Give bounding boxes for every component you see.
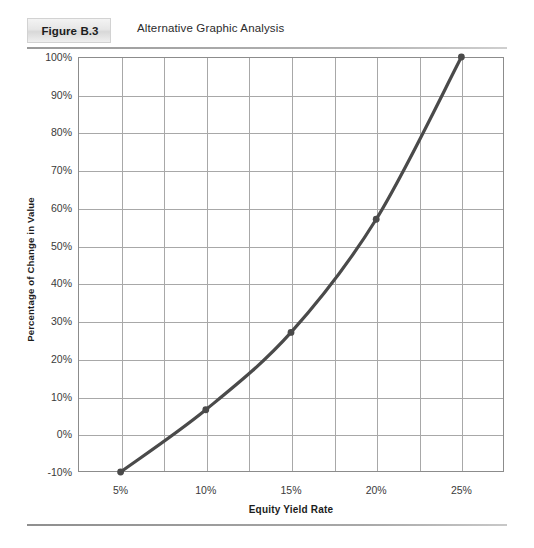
x-axis-tick-label: 5%	[91, 484, 151, 496]
figure-header: Figure B.3 Alternative Graphic Analysis	[27, 18, 507, 46]
y-axis-tick-label: 90%	[10, 89, 72, 101]
y-axis-tick-label: 80%	[10, 126, 72, 138]
x-axis-tick-label: 15%	[261, 484, 321, 496]
data-point-marker	[202, 406, 209, 413]
header-divider	[27, 47, 507, 49]
y-axis-tick-label: 40%	[10, 277, 72, 289]
figure-number-label: Figure B.3	[28, 19, 112, 44]
data-point-marker	[458, 54, 465, 61]
x-axis-ticks: 5%10%15%20%25%	[78, 484, 504, 500]
y-axis-tick-label: 10%	[10, 391, 72, 403]
y-axis-ticks: 100%90%80%70%60%50%40%30%20%10%0%-10%	[8, 57, 72, 472]
figure-title: Alternative Graphic Analysis	[137, 22, 284, 34]
data-point-marker	[373, 216, 380, 223]
data-series-line	[78, 57, 504, 472]
y-axis-tick-label: 60%	[10, 202, 72, 214]
y-axis-tick-label: 50%	[10, 240, 72, 252]
x-axis-title: Equity Yield Rate	[78, 504, 504, 515]
chart-region: 100%90%80%70%60%50%40%30%20%10%0%-10% Pe…	[0, 52, 534, 512]
x-axis-tick-label: 25%	[431, 484, 491, 496]
y-axis-tick-label: -10%	[10, 466, 72, 478]
figure-number-badge: Figure B.3	[27, 18, 111, 43]
footer-divider	[27, 524, 507, 526]
x-axis-tick-label: 20%	[346, 484, 406, 496]
y-axis-tick-label: 100%	[10, 51, 72, 63]
y-axis-tick-label: 0%	[10, 428, 72, 440]
y-axis-tick-label: 30%	[10, 315, 72, 327]
y-axis-tick-label: 20%	[10, 353, 72, 365]
curve-path	[121, 57, 462, 472]
y-axis-tick-label: 70%	[10, 164, 72, 176]
y-axis-title: Percentage of Change in Value	[25, 170, 36, 370]
data-point-marker	[117, 469, 124, 476]
data-point-marker	[288, 329, 295, 336]
x-axis-tick-label: 10%	[176, 484, 236, 496]
data-point-markers	[117, 54, 465, 476]
